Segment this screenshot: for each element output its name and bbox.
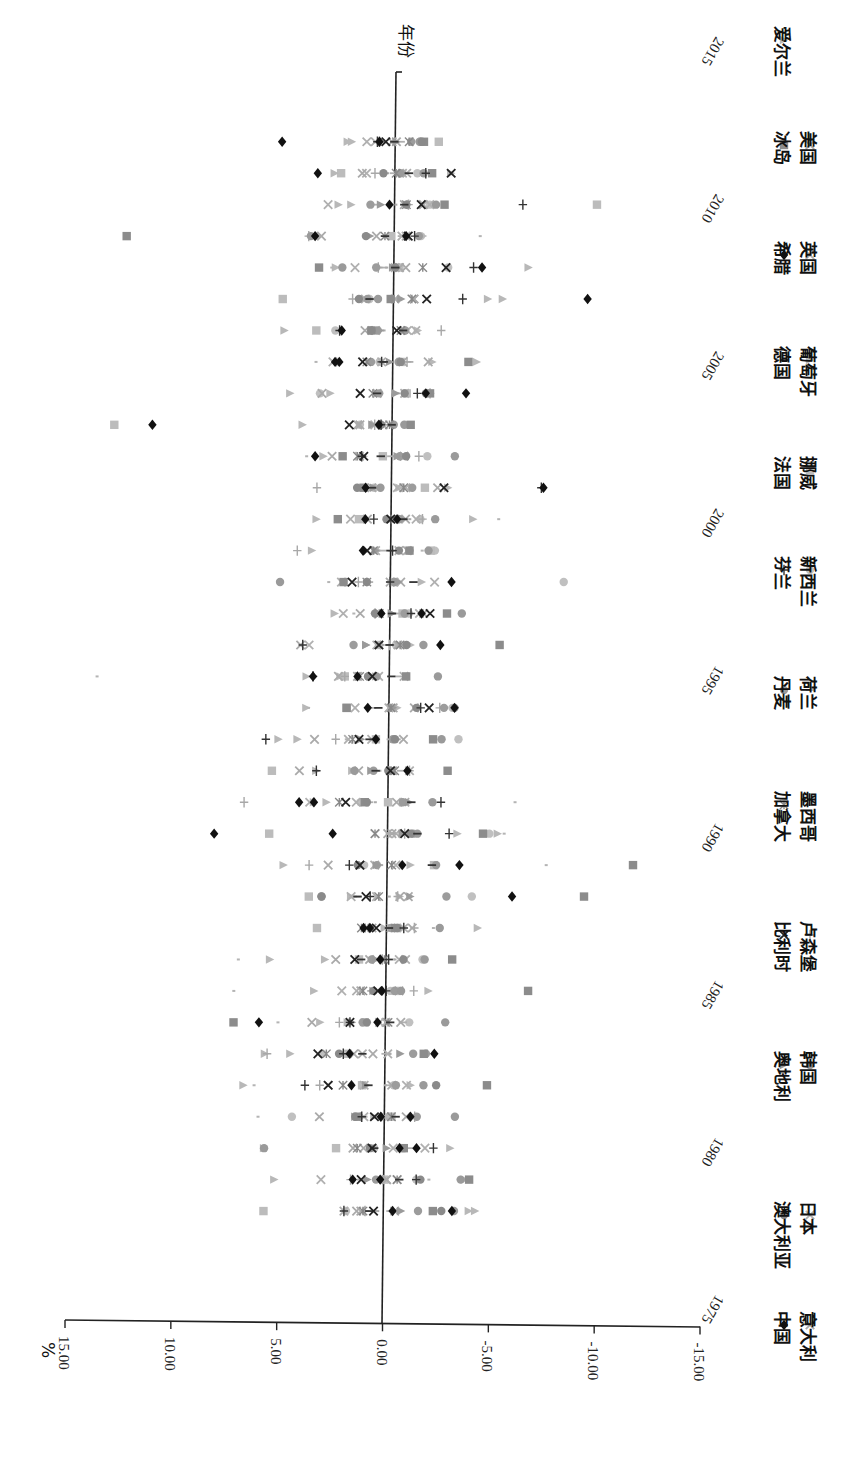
year-axis-line <box>382 72 396 1324</box>
data-point <box>406 421 414 429</box>
data-point <box>410 986 418 996</box>
data-point <box>454 735 462 743</box>
data-point <box>494 829 502 837</box>
data-point <box>349 641 357 649</box>
data-point <box>451 1113 459 1121</box>
data-point <box>309 671 317 681</box>
data-point <box>363 798 371 806</box>
data-point <box>417 608 425 618</box>
legend-label: 墨西哥 <box>798 791 818 842</box>
year-tick-label: 1990 <box>698 821 727 855</box>
data-point <box>373 1017 381 1027</box>
value-tick-label: -15.00 <box>691 1343 707 1382</box>
legend-item: 日本 <box>798 1201 818 1235</box>
legend-item: 意大利 <box>798 1311 818 1362</box>
legend-label: 芬兰 <box>772 555 792 590</box>
data-point <box>362 232 370 240</box>
legend-label: 比利时 <box>772 921 792 972</box>
data-point <box>347 1080 355 1090</box>
legend-item: 墨西哥 <box>798 791 818 842</box>
data-point <box>479 829 487 837</box>
data-point <box>376 954 384 964</box>
data-point <box>339 609 347 617</box>
data-point <box>280 326 288 334</box>
data-point <box>428 798 436 806</box>
data-point <box>399 955 407 963</box>
legend-label: 加拿大 <box>772 790 792 842</box>
data-point <box>430 578 438 586</box>
data-point <box>110 421 118 429</box>
data-point <box>263 1049 271 1059</box>
data-point <box>402 672 410 680</box>
data-point <box>353 1144 361 1152</box>
data-point <box>122 232 130 240</box>
data-point <box>369 1050 377 1058</box>
data-point <box>310 987 318 995</box>
data-point <box>458 294 466 304</box>
data-point <box>407 861 415 869</box>
data-point <box>356 609 364 617</box>
data-point <box>394 891 402 901</box>
data-point <box>409 1050 417 1058</box>
data-point <box>443 767 451 775</box>
data-point <box>305 860 313 870</box>
data-point <box>278 137 286 147</box>
data-point <box>363 138 371 146</box>
data-point <box>519 199 527 209</box>
data-point <box>345 421 353 429</box>
year-tick-label: 2000 <box>698 506 727 540</box>
legend-item: 比利时 <box>772 921 792 972</box>
data-point <box>210 828 218 838</box>
data-point <box>270 1175 278 1183</box>
data-point <box>560 578 568 586</box>
data-point <box>412 1143 420 1153</box>
data-point <box>301 1080 309 1090</box>
data-point <box>447 577 455 587</box>
legend-label: 韩国 <box>798 1051 818 1085</box>
legend-item: 奥地利 <box>772 1051 792 1102</box>
data-point <box>453 829 461 837</box>
value-tick-label: 5.00 <box>268 1338 284 1364</box>
data-point <box>499 295 507 303</box>
legend-label: 奥地利 <box>772 1051 792 1102</box>
data-point <box>421 1144 429 1152</box>
data-point <box>324 200 332 208</box>
data-point <box>419 263 427 271</box>
data-point <box>418 138 426 146</box>
data-point <box>280 861 288 869</box>
data-point <box>418 578 426 586</box>
data-point <box>440 200 448 208</box>
data-point <box>388 1206 396 1216</box>
data-point <box>524 987 532 995</box>
data-point <box>338 987 346 995</box>
data-point <box>332 734 340 744</box>
legend-label: 日本 <box>798 1201 818 1235</box>
year-tick-label: 1980 <box>698 1135 727 1169</box>
data-point <box>313 483 321 493</box>
data-point <box>436 640 444 650</box>
data-point <box>353 484 361 492</box>
data-point <box>419 1081 427 1089</box>
legend-label: 希腊 <box>772 241 792 275</box>
data-point <box>444 484 452 492</box>
data-point <box>316 1080 324 1090</box>
axes <box>65 72 700 1327</box>
data-point <box>276 578 284 586</box>
data-point <box>324 1081 332 1089</box>
data-point <box>356 389 364 397</box>
data-point <box>312 766 320 776</box>
data-point <box>391 735 399 743</box>
data-point <box>315 1113 323 1121</box>
legend-item: 美国 <box>798 131 818 165</box>
data-point <box>415 451 423 461</box>
data-point <box>402 452 410 460</box>
data-point <box>347 200 355 208</box>
x-axis-title: 年份 <box>396 24 416 58</box>
data-point <box>424 987 432 995</box>
data-point <box>288 1113 296 1121</box>
legend-item: 爱尔兰 <box>772 26 792 77</box>
data-point <box>414 1207 422 1215</box>
data-point <box>371 168 379 178</box>
data-point <box>382 515 390 523</box>
data-point <box>317 892 325 900</box>
